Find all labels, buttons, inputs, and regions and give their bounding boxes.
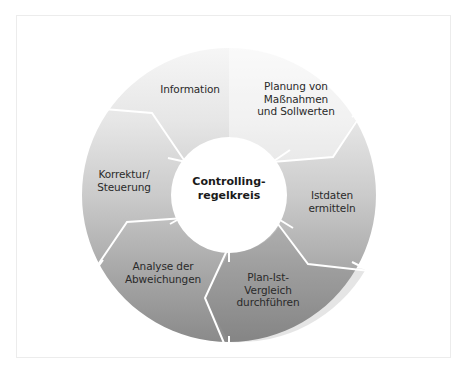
segment-label-analyse: Analyse der Abweichungen [125,260,201,285]
segment-label-istdaten: Istdaten ermitteln [308,189,355,214]
segment-label-planung: Planung von Maßnahmen und Sollwerten [257,80,334,118]
segment-label-plan-ist: Plan-Ist- Vergleich durchführen [237,271,300,309]
segment-label-information: Information [160,83,220,96]
segment-label-korrektur: Korrektur/ Steuerung [97,168,151,193]
center-label: Controlling- regelkreis [192,175,265,203]
